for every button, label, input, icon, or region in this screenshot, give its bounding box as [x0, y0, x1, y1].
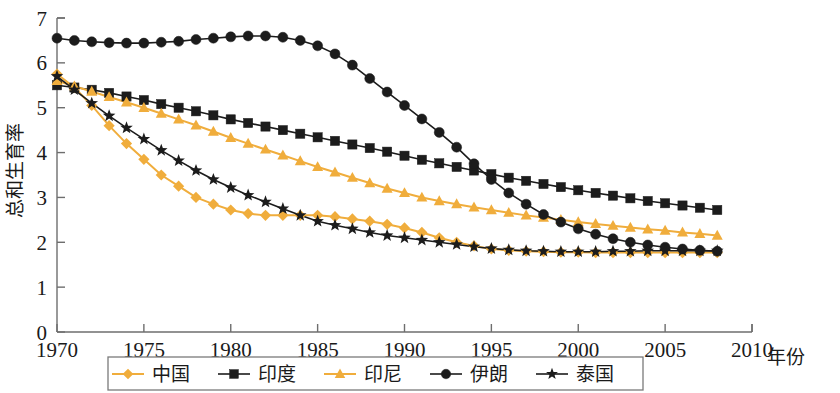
x-axis-title: 年份	[767, 346, 805, 368]
marker-diamond	[243, 208, 254, 219]
y-tick-label: 1	[37, 276, 48, 300]
marker-star	[450, 238, 463, 250]
marker-square	[504, 173, 513, 182]
marker-circle	[191, 35, 201, 45]
marker-circle	[69, 35, 79, 45]
marker-square	[348, 140, 357, 149]
marker-circle	[382, 87, 392, 97]
marker-square	[556, 183, 565, 192]
y-axis-title: 总和生育率	[4, 123, 26, 218]
marker-square	[713, 205, 722, 214]
x-axis-ticks	[57, 324, 752, 332]
marker-star	[259, 195, 272, 207]
x-tick-label: 2000	[557, 338, 599, 362]
marker-circle	[208, 33, 218, 43]
x-tick-label: 1970	[36, 338, 78, 362]
x-axis-tick-labels: 197019751980198519901995200020052010	[36, 338, 773, 362]
marker-square	[452, 162, 461, 171]
legend-label: 泰国	[576, 363, 614, 385]
marker-circle	[452, 142, 462, 152]
marker-circle	[504, 188, 514, 198]
marker-circle	[608, 234, 618, 244]
y-axis-tick-labels: 01234567	[37, 7, 48, 345]
marker-circle	[434, 127, 444, 137]
legend-label: 印度	[258, 363, 296, 385]
marker-star	[329, 219, 342, 231]
marker-square	[278, 126, 287, 135]
y-tick-label: 2	[37, 231, 48, 255]
series-markers-印度	[52, 81, 721, 215]
x-tick-label: 2005	[644, 338, 686, 362]
marker-circle	[278, 32, 288, 42]
legend-item-伊朗[interactable]: 伊朗	[430, 363, 508, 385]
marker-circle	[556, 217, 566, 227]
x-tick-label: 1985	[297, 338, 339, 362]
marker-diamond	[260, 210, 271, 221]
marker-star	[190, 164, 203, 176]
y-axis-title-text: 总和生育率	[4, 123, 26, 218]
legend-item-印尼[interactable]: 印尼	[324, 363, 402, 385]
marker-square	[191, 107, 200, 116]
marker-circle	[295, 35, 305, 45]
marker-square	[230, 370, 239, 379]
marker-square	[626, 194, 635, 203]
y-tick-label: 4	[37, 141, 48, 165]
marker-square	[330, 136, 339, 145]
legend-label: 中国	[152, 363, 190, 385]
marker-star	[398, 231, 411, 243]
marker-square	[574, 186, 583, 195]
x-tick-label: 1980	[210, 338, 252, 362]
series-layer	[51, 31, 724, 258]
y-tick-label: 3	[37, 186, 48, 210]
marker-circle	[400, 100, 410, 110]
marker-circle	[573, 224, 583, 234]
marker-square	[678, 201, 687, 210]
marker-star	[242, 189, 255, 201]
marker-circle	[104, 38, 114, 48]
legend-label: 伊朗	[470, 363, 508, 385]
legend-item-中国[interactable]: 中国	[112, 363, 190, 385]
marker-circle	[52, 33, 62, 43]
legend-label: 印尼	[364, 363, 402, 385]
marker-diamond	[173, 181, 184, 192]
marker-square	[608, 191, 617, 200]
marker-square	[157, 100, 166, 109]
y-axis-ticks	[57, 18, 65, 332]
marker-circle	[261, 31, 271, 41]
marker-square	[522, 176, 531, 185]
marker-circle	[87, 37, 97, 47]
marker-circle	[330, 49, 340, 59]
marker-square	[313, 133, 322, 142]
marker-circle	[591, 229, 601, 239]
marker-star	[546, 368, 558, 379]
marker-circle	[365, 74, 375, 84]
marker-star	[363, 226, 376, 238]
marker-star	[172, 154, 185, 166]
legend-item-泰国[interactable]: 泰国	[536, 363, 614, 385]
marker-square	[435, 159, 444, 168]
marker-circle	[174, 36, 184, 46]
marker-circle	[156, 37, 166, 47]
marker-diamond	[277, 210, 288, 221]
legend-item-印度[interactable]: 印度	[218, 363, 296, 385]
marker-square	[383, 147, 392, 156]
x-tick-label: 1975	[123, 338, 165, 362]
marker-square	[400, 151, 409, 160]
marker-star	[155, 144, 168, 156]
marker-diamond	[190, 192, 201, 203]
marker-star	[207, 173, 220, 185]
marker-circle	[122, 38, 132, 48]
marker-diamond	[225, 204, 236, 215]
marker-square	[365, 143, 374, 152]
marker-square	[539, 179, 548, 188]
series-印尼	[57, 81, 717, 236]
marker-square	[296, 129, 305, 138]
marker-diamond	[123, 369, 134, 380]
marker-circle	[347, 60, 357, 70]
marker-square	[244, 118, 253, 127]
marker-square	[591, 188, 600, 197]
y-tick-label: 6	[37, 51, 48, 75]
marker-circle	[539, 209, 549, 219]
marker-circle	[417, 114, 427, 124]
series-line	[57, 81, 717, 236]
